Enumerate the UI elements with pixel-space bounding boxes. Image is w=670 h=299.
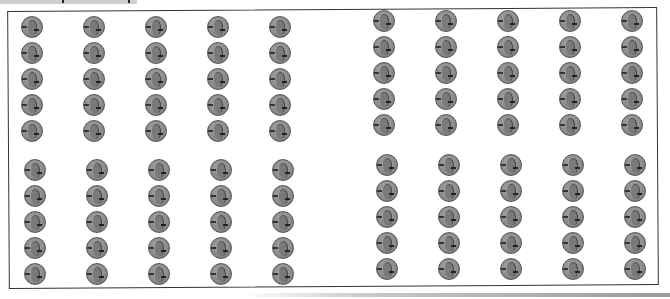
penny-icon bbox=[210, 263, 232, 285]
penny-icon bbox=[272, 263, 294, 285]
penny-icon bbox=[210, 237, 232, 259]
penny-icon bbox=[438, 206, 460, 228]
coin-block-top-left bbox=[21, 16, 291, 142]
penny-icon bbox=[210, 159, 232, 181]
penny-icon bbox=[269, 42, 291, 64]
penny-icon bbox=[500, 258, 522, 280]
penny-icon bbox=[145, 68, 167, 90]
penny-icon bbox=[435, 36, 457, 58]
penny-icon bbox=[373, 62, 395, 84]
penny-icon bbox=[624, 154, 646, 176]
penny-icon bbox=[269, 68, 291, 90]
coin-block-top-right bbox=[373, 10, 643, 136]
text-fragment bbox=[62, 0, 64, 3]
penny-icon bbox=[621, 36, 643, 58]
penny-icon bbox=[86, 211, 108, 233]
penny-icon bbox=[373, 36, 395, 58]
penny-icon bbox=[562, 232, 584, 254]
penny-icon bbox=[376, 206, 398, 228]
penny-icon bbox=[497, 10, 519, 32]
penny-icon bbox=[438, 258, 460, 280]
penny-icon bbox=[559, 88, 581, 110]
penny-icon bbox=[497, 114, 519, 136]
penny-icon bbox=[621, 10, 643, 32]
penny-icon bbox=[559, 36, 581, 58]
penny-icon bbox=[624, 232, 646, 254]
penny-icon bbox=[24, 211, 46, 233]
penny-icon bbox=[145, 120, 167, 142]
header-strip bbox=[0, 0, 137, 4]
penny-icon bbox=[376, 258, 398, 280]
penny-icon bbox=[207, 42, 229, 64]
penny-icon bbox=[621, 62, 643, 84]
penny-icon bbox=[621, 88, 643, 110]
penny-icon bbox=[83, 68, 105, 90]
footer-strip bbox=[240, 293, 670, 297]
penny-icon bbox=[148, 159, 170, 181]
penny-icon bbox=[500, 180, 522, 202]
penny-icon bbox=[83, 16, 105, 38]
penny-icon bbox=[435, 10, 457, 32]
penny-icon bbox=[86, 159, 108, 181]
penny-icon bbox=[373, 114, 395, 136]
penny-icon bbox=[624, 206, 646, 228]
penny-icon bbox=[373, 88, 395, 110]
penny-icon bbox=[500, 206, 522, 228]
penny-icon bbox=[497, 88, 519, 110]
penny-icon bbox=[148, 211, 170, 233]
penny-icon bbox=[86, 185, 108, 207]
penny-icon bbox=[24, 185, 46, 207]
penny-icon bbox=[21, 68, 43, 90]
penny-icon bbox=[148, 237, 170, 259]
penny-icon bbox=[562, 258, 584, 280]
penny-icon bbox=[24, 159, 46, 181]
penny-icon bbox=[272, 159, 294, 181]
penny-icon bbox=[376, 154, 398, 176]
penny-icon bbox=[210, 211, 232, 233]
penny-icon bbox=[373, 10, 395, 32]
coin-block-bottom-right bbox=[376, 154, 646, 280]
penny-icon bbox=[83, 120, 105, 142]
penny-icon bbox=[559, 62, 581, 84]
penny-icon bbox=[145, 16, 167, 38]
penny-icon bbox=[86, 237, 108, 259]
penny-icon bbox=[269, 120, 291, 142]
penny-icon bbox=[145, 94, 167, 116]
penny-icon bbox=[24, 237, 46, 259]
penny-icon bbox=[148, 185, 170, 207]
penny-icon bbox=[562, 154, 584, 176]
penny-icon bbox=[207, 120, 229, 142]
penny-icon bbox=[21, 16, 43, 38]
penny-icon bbox=[272, 185, 294, 207]
penny-icon bbox=[376, 180, 398, 202]
penny-icon bbox=[438, 154, 460, 176]
penny-icon bbox=[500, 232, 522, 254]
penny-icon bbox=[497, 62, 519, 84]
penny-icon bbox=[559, 114, 581, 136]
penny-icon bbox=[435, 88, 457, 110]
penny-icon bbox=[438, 180, 460, 202]
penny-icon bbox=[376, 232, 398, 254]
penny-icon bbox=[435, 114, 457, 136]
penny-icon bbox=[24, 263, 46, 285]
penny-icon bbox=[269, 94, 291, 116]
penny-icon bbox=[562, 180, 584, 202]
penny-icon bbox=[438, 232, 460, 254]
penny-icon bbox=[207, 16, 229, 38]
penny-icon bbox=[497, 36, 519, 58]
penny-icon bbox=[562, 206, 584, 228]
penny-icon bbox=[559, 10, 581, 32]
penny-icon bbox=[500, 154, 522, 176]
penny-icon bbox=[21, 120, 43, 142]
coin-block-bottom-left bbox=[24, 159, 294, 285]
penny-icon bbox=[210, 185, 232, 207]
penny-icon bbox=[145, 42, 167, 64]
penny-icon bbox=[86, 263, 108, 285]
penny-icon bbox=[624, 180, 646, 202]
penny-icon bbox=[83, 42, 105, 64]
penny-icon bbox=[624, 258, 646, 280]
penny-icon bbox=[207, 68, 229, 90]
penny-icon bbox=[272, 237, 294, 259]
penny-icon bbox=[435, 62, 457, 84]
penny-icon bbox=[621, 114, 643, 136]
